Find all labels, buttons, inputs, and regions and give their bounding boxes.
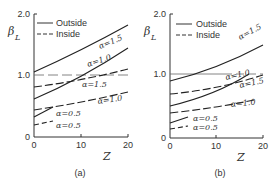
label-outside-alpha-1.5: α=1.5 [237,22,263,42]
label-outside-alpha-0.5: α=0.5 [56,109,81,118]
series-inside-alpha-1.5 [34,69,128,87]
y-axis-title-subscript: L [14,33,20,42]
label-outside-alpha-0.5: α=0.5 [193,114,218,123]
series-inside-alpha-0.5 [34,121,53,125]
legend-outside-label: Outside [56,18,87,28]
panel-a: 2.0 1.0 0 0 10 20 β L Z (a) Outside Insi… [7,9,133,178]
legend-inside-label: Inside [56,29,80,39]
y-tick-label: 0 [25,132,30,142]
label-inside-alpha-1.5: α=1.5 [82,80,107,89]
series-outside-alpha-0.5 [170,117,188,123]
x-tick-label: 20 [123,140,133,150]
y-tick-label: 1.0 [17,70,30,80]
x-axis-title: Z [236,151,245,164]
panel-b: 2.0 1.0 0 0 10 20 β L Z (b) Outside Insi… [143,9,268,178]
y-axis-title: β [7,25,14,38]
label-inside-alpha-1.0: α=1.0 [230,97,256,109]
label-outside-alpha-1.5: α=1.5 [97,33,123,51]
x-tick-label: 10 [211,141,221,151]
label-inside-alpha-1.0: α=1.0 [97,94,123,106]
series-outside-alpha-0.5 [34,107,53,117]
x-tick-label: 10 [76,140,86,150]
panel-label: (a) [75,168,86,178]
y-tick-label: 0 [161,133,166,143]
figure: 2.0 1.0 0 0 10 20 β L Z (a) Outside Insi… [0,0,272,187]
x-tick-label: 0 [167,141,172,151]
x-axis-title: Z [102,150,111,163]
series-inside-alpha-0.5 [170,126,188,129]
panel-label: (b) [215,168,226,178]
series-outside-alpha-1.0 [34,48,128,99]
y-tick-label: 2.0 [153,9,166,19]
x-tick-label: 20 [258,141,268,151]
label-inside-alpha-0.5: α=0.5 [56,121,81,130]
y-tick-label: 2.0 [17,9,30,19]
label-inside-alpha-0.5: α=0.5 [193,123,218,132]
series-outside-alpha-1.5 [34,25,128,72]
y-axis-title: β [143,25,150,38]
legend-outside-label: Outside [196,19,227,29]
legend-inside-label: Inside [196,30,220,40]
y-axis-title-subscript: L [150,33,156,42]
y-tick-label: 1.0 [153,69,166,79]
x-tick-label: 0 [31,140,36,150]
